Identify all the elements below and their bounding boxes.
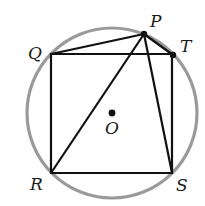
point-t xyxy=(170,52,176,58)
label-p: P xyxy=(149,11,162,31)
label-q: Q xyxy=(28,43,42,63)
point-p xyxy=(141,31,147,37)
label-r: R xyxy=(29,174,43,194)
label-o: O xyxy=(105,118,119,138)
point-o xyxy=(109,110,116,117)
label-t: T xyxy=(180,36,193,56)
geometry-diagram: P Q T R S O xyxy=(0,0,205,206)
label-s: S xyxy=(176,175,188,195)
